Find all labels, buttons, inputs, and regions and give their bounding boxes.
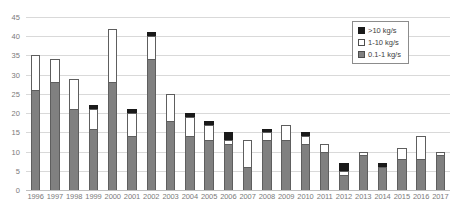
bar-group xyxy=(416,136,426,190)
bar-segment xyxy=(339,163,349,171)
x-tick-label: 2008 xyxy=(259,192,275,201)
legend-item-label: 0.1-1 kg/s xyxy=(368,50,401,59)
bar-group xyxy=(166,94,176,190)
bar-segment xyxy=(185,117,195,136)
x-tick-label: 2007 xyxy=(239,192,255,201)
bar-group xyxy=(147,32,157,190)
bar-segment xyxy=(204,140,214,190)
bar-segment xyxy=(243,140,253,167)
legend-swatch-icon xyxy=(358,51,365,58)
x-tick-label: 2006 xyxy=(220,192,236,201)
bar-group xyxy=(301,132,311,190)
y-tick-label: 35 xyxy=(11,51,20,60)
bar-segment xyxy=(262,132,272,140)
bar-group xyxy=(262,129,272,191)
bar-group xyxy=(436,152,446,190)
bar-segment xyxy=(224,132,234,140)
y-tick-label: 20 xyxy=(11,109,20,118)
x-tick-label: 2014 xyxy=(374,192,390,201)
y-tick-label: 0 xyxy=(16,186,20,195)
x-tick-label: 2011 xyxy=(317,192,333,201)
bar-segment xyxy=(359,155,369,190)
bar-group xyxy=(89,105,99,190)
bar-segment xyxy=(69,79,79,110)
bar-segment xyxy=(204,125,214,140)
bar-segment xyxy=(378,167,388,190)
bar-segment xyxy=(416,136,426,159)
bar-segment xyxy=(31,90,41,190)
bar-group xyxy=(69,79,79,190)
x-tick-label: 2015 xyxy=(394,192,410,201)
bar-group xyxy=(204,121,214,190)
x-tick-label: 2017 xyxy=(432,192,448,201)
x-tick-label: 2001 xyxy=(124,192,140,201)
bar-group xyxy=(50,59,60,190)
bar-segment xyxy=(89,109,99,128)
x-axis: 1996199719981999200020012002200320042005… xyxy=(26,192,450,214)
bar-group xyxy=(31,55,41,190)
x-tick-label: 1996 xyxy=(27,192,43,201)
x-tick-label: 2016 xyxy=(413,192,429,201)
legend-item-label: >10 kg/s xyxy=(368,26,397,35)
bar-segment xyxy=(89,129,99,191)
bar-segment xyxy=(166,94,176,121)
bar-segment xyxy=(301,144,311,190)
bar-segment xyxy=(108,82,118,190)
bar-group xyxy=(127,109,137,190)
bar-group xyxy=(378,163,388,190)
bar-segment xyxy=(397,159,407,190)
bar-segment xyxy=(339,175,349,190)
y-tick-label: 5 xyxy=(16,166,20,175)
x-tick-label: 2003 xyxy=(162,192,178,201)
x-tick-label: 2009 xyxy=(278,192,294,201)
x-tick-label: 2013 xyxy=(355,192,371,201)
bar-segment xyxy=(127,113,137,136)
bar-segment xyxy=(397,148,407,160)
bar-segment xyxy=(243,167,253,190)
y-tick-label: 40 xyxy=(11,32,20,41)
x-tick-label: 1998 xyxy=(66,192,82,201)
x-tick-label: 1999 xyxy=(85,192,101,201)
bar-group xyxy=(185,113,195,190)
bar-segment xyxy=(224,144,234,190)
legend-item: 0.1-1 kg/s xyxy=(358,50,401,59)
legend-item: >10 kg/s xyxy=(358,26,401,35)
legend-item: 1-10 kg/s xyxy=(358,38,401,47)
bar-segment xyxy=(166,121,176,190)
y-tick-label: 45 xyxy=(11,13,20,22)
x-tick-label: 2010 xyxy=(297,192,313,201)
y-axis: 051015202530354045 xyxy=(0,17,24,190)
bar-group xyxy=(108,29,118,190)
legend-swatch-icon xyxy=(358,27,365,34)
x-tick-label: 1997 xyxy=(47,192,63,201)
bar-segment xyxy=(281,140,291,190)
bar-segment xyxy=(185,136,195,190)
legend-item-label: 1-10 kg/s xyxy=(368,38,399,47)
x-tick-label: 2004 xyxy=(182,192,198,201)
bar-segment xyxy=(436,155,446,190)
bar-segment xyxy=(108,29,118,83)
bar-group xyxy=(224,132,234,190)
bar-segment xyxy=(301,136,311,144)
bar-segment xyxy=(31,55,41,90)
bar-segment xyxy=(320,152,330,190)
x-tick-label: 2000 xyxy=(105,192,121,201)
bar-segment xyxy=(127,136,137,190)
y-tick-label: 15 xyxy=(11,128,20,137)
stacked-bar-chart: 051015202530354045 199619971998199920002… xyxy=(0,0,455,217)
bar-segment xyxy=(320,144,330,152)
gridline-0 xyxy=(26,190,450,191)
legend-swatch-icon xyxy=(358,39,365,46)
bar-segment xyxy=(416,159,426,190)
chart-legend: >10 kg/s1-10 kg/s0.1-1 kg/s xyxy=(352,21,409,64)
bar-segment xyxy=(281,125,291,140)
bar-segment xyxy=(50,82,60,190)
bar-segment xyxy=(262,140,272,190)
y-tick-label: 10 xyxy=(11,147,20,156)
bar-segment xyxy=(50,59,60,82)
y-tick-label: 30 xyxy=(11,70,20,79)
bar-segment xyxy=(69,109,79,190)
x-tick-label: 2012 xyxy=(336,192,352,201)
bar-group xyxy=(243,140,253,190)
x-tick-label: 2002 xyxy=(143,192,159,201)
